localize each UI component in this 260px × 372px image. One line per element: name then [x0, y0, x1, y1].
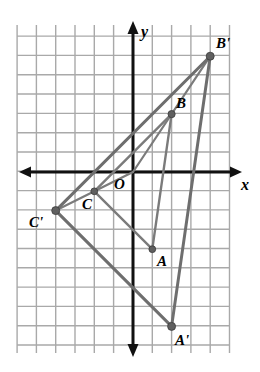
vertex-dot-a-prime — [168, 322, 176, 330]
label-a: A — [156, 253, 167, 269]
vertex-dot-b — [168, 111, 175, 118]
y-axis-arrow-down — [128, 344, 139, 357]
label-x-axis: x — [240, 176, 249, 193]
label-c: C — [82, 196, 93, 212]
vertex-dot-c — [91, 188, 98, 195]
vertex-dot-a — [149, 246, 156, 253]
label-b: B — [175, 95, 186, 111]
coordinate-plane-svg: A B C A' B' C' O x y — [0, 0, 260, 372]
x-axis-arrow-left — [19, 167, 31, 178]
vertex-dot-c-prime — [52, 207, 60, 215]
dilation-figure: A B C A' B' C' O x y — [0, 0, 260, 372]
label-c-prime: C' — [29, 214, 43, 230]
y-axis-arrow-up — [128, 21, 139, 34]
vertex-dot-b-prime — [206, 52, 214, 60]
label-b-prime: B' — [215, 35, 230, 51]
label-y-axis: y — [139, 23, 149, 41]
label-a-prime: A' — [174, 332, 189, 348]
point-labels: A B C A' B' C' O — [29, 35, 230, 348]
label-origin: O — [114, 176, 125, 192]
